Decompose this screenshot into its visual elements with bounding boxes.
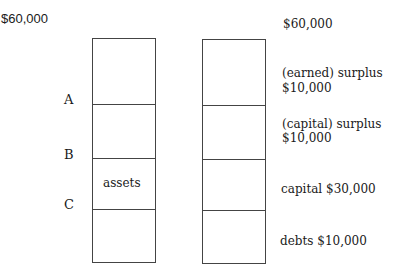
assets-label: assets [103,176,141,190]
divider-a [92,104,156,105]
capital-surplus-value: $10,000 [282,131,332,145]
divider-3 [202,210,266,211]
earned-surplus-value: $10,000 [282,81,332,95]
divider-b [92,158,156,159]
right-total-label: $60,000 [283,17,333,31]
marker-a: A [64,93,73,107]
debts-label: debts $10,000 [280,234,367,248]
left-total-label: $60,000 [1,12,48,26]
assets-box [92,38,156,263]
marker-c: C [64,198,74,212]
liabilities-box [202,39,266,264]
earned-surplus-label: (earned) surplus [282,66,383,80]
divider-1 [202,105,266,106]
divider-c [92,209,156,210]
capital-label: capital $30,000 [281,182,376,196]
divider-2 [202,159,266,160]
marker-b: B [64,148,74,162]
capital-surplus-label: (capital) surplus [282,117,381,131]
